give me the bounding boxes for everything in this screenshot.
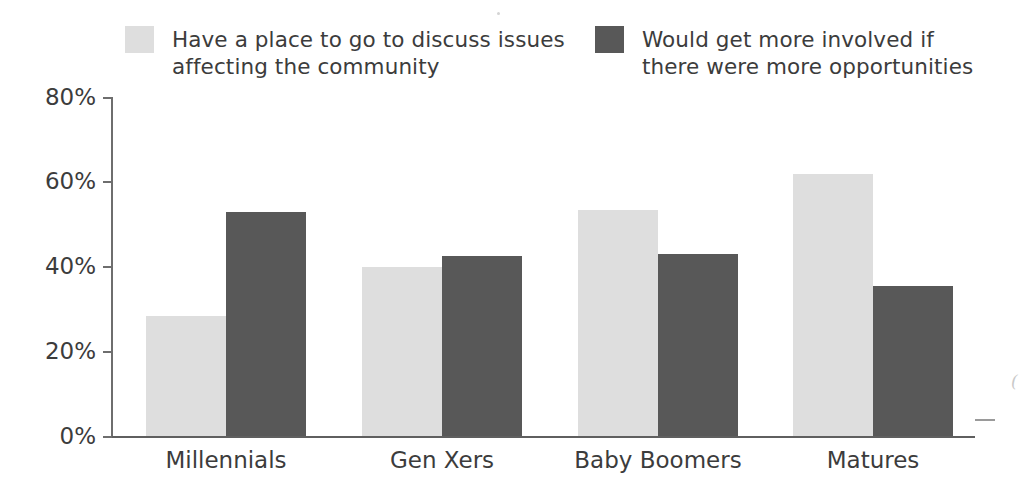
y-axis-tick-40 bbox=[103, 266, 112, 268]
bar-matures-would-get-involved bbox=[873, 286, 953, 436]
y-axis-tick-20 bbox=[103, 351, 112, 353]
x-axis-label-matures: Matures bbox=[753, 445, 993, 475]
y-axis-label-80: 80% bbox=[45, 86, 96, 109]
bar-millennials-would-get-involved bbox=[226, 212, 306, 436]
bar-gen-xers-have-a-place bbox=[362, 267, 442, 436]
bar-baby-boomers-would-get-involved bbox=[658, 254, 738, 436]
y-axis-tick-0 bbox=[103, 436, 112, 438]
y-axis-tick-60 bbox=[103, 181, 112, 183]
page-speck bbox=[497, 12, 500, 15]
x-axis-label-gen-xers: Gen Xers bbox=[322, 445, 562, 475]
bar-baby-boomers-have-a-place bbox=[578, 210, 658, 436]
y-axis-label-20: 20% bbox=[45, 340, 96, 363]
bar-millennials-have-a-place bbox=[146, 316, 226, 436]
y-axis-label-40: 40% bbox=[45, 255, 96, 278]
x-axis-label-millennials: Millennials bbox=[106, 445, 346, 475]
page-edge-artifact: ( bbox=[1011, 368, 1027, 478]
page-edge-dash bbox=[975, 419, 995, 421]
x-axis-line bbox=[111, 436, 975, 438]
x-axis-label-baby-boomers: Baby Boomers bbox=[538, 445, 778, 475]
y-axis-label-60: 60% bbox=[45, 170, 96, 193]
y-axis-label-0: 0% bbox=[60, 425, 97, 448]
bar-chart-plot-area: 80% 60% 40% 20% 0% MillennialsGen XersBa… bbox=[0, 0, 1029, 489]
y-axis-tick-80 bbox=[103, 97, 112, 99]
bar-gen-xers-would-get-involved bbox=[442, 256, 522, 436]
bar-matures-have-a-place bbox=[793, 174, 873, 436]
